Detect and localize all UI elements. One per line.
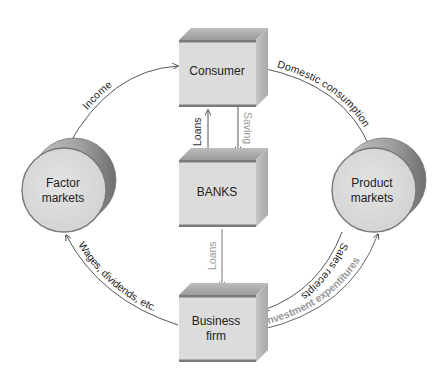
factor-label-line2: markets (42, 191, 85, 205)
consumer-box-band-bottom (179, 105, 256, 108)
flow-loans-to-business: Loans (206, 229, 222, 287)
product-markets-cylinder: Product markets (332, 138, 426, 232)
flow-domestic-consumption: Domestic consumption (262, 58, 373, 148)
flow-saving: Saving (238, 107, 254, 152)
consumer-box-top (179, 28, 268, 40)
product-label-line1: Product (351, 176, 393, 190)
business-firm-box: Business firm (179, 283, 268, 362)
saving-label: Saving (242, 112, 254, 144)
consumer-label: Consumer (189, 64, 244, 78)
loans-up-label: Loans (191, 117, 203, 146)
consumer-box-band-top (179, 40, 256, 43)
banks-box-band-top (179, 160, 256, 163)
business-box-top (179, 283, 268, 295)
business-label-line2: firm (206, 329, 226, 343)
loans-down-label: Loans (206, 241, 218, 270)
consumer-box: Consumer (179, 28, 268, 107)
product-label-line2: markets (351, 191, 394, 205)
factor-label-line1: Factor (46, 176, 80, 190)
business-box-band-bottom (179, 360, 256, 363)
banks-box-side (256, 148, 268, 227)
circular-flow-diagram: Income Domestic consumption Loans Saving… (0, 0, 439, 380)
banks-label: BANKS (197, 185, 238, 199)
domestic-consumption-label: Domestic consumption (276, 58, 373, 129)
business-label-line1: Business (192, 314, 241, 328)
flow-income: Income (68, 66, 178, 146)
business-box-band-top (179, 295, 256, 298)
factor-markets-cylinder: Factor markets (22, 138, 116, 232)
wages-label: Wages, dividends, etc. (76, 239, 158, 313)
banks-box-band-bottom (179, 225, 256, 228)
business-box-side (256, 283, 268, 362)
banks-box: BANKS (179, 148, 268, 227)
banks-box-top (179, 148, 268, 160)
consumer-box-side (256, 28, 268, 107)
product-cylinder-face (332, 148, 416, 232)
factor-cylinder-face (22, 148, 106, 232)
flow-loans-to-consumer: Loans (191, 110, 208, 154)
income-label: Income (80, 78, 114, 112)
flow-wages: Wages, dividends, etc. (66, 235, 178, 325)
